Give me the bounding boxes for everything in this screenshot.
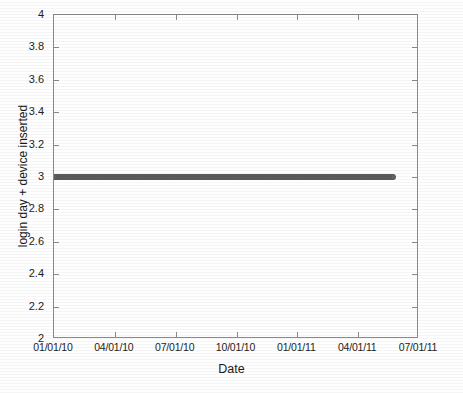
y-tick-label: 3 [38, 170, 44, 182]
x-tick-label: 10/01/10 [216, 341, 255, 353]
x-tick-label: 01/01/11 [277, 341, 316, 353]
figure-canvas: 22.22.42.62.833.23.43.63.84 login day + … [0, 0, 463, 393]
x-axis-title: Date [0, 362, 463, 376]
x-tick-label: 01/01/10 [33, 341, 72, 353]
y-axis-title: login day + device inserted [16, 105, 30, 247]
plot-area [53, 14, 418, 338]
x-tick-label: 04/01/11 [338, 341, 377, 353]
data-point-marker [390, 174, 396, 180]
x-axis-tick-labels: 01/01/1004/01/1007/01/1010/01/1001/01/11… [0, 341, 463, 357]
y-tick-label: 4 [38, 8, 44, 20]
y-axis-title-container: login day + device inserted [14, 14, 32, 338]
x-tick-label: 07/01/10 [155, 341, 194, 353]
x-tick-label: 07/01/11 [399, 341, 438, 353]
x-tick-label: 04/01/10 [94, 341, 133, 353]
scatter-series-login-day-device-inserted [54, 15, 417, 337]
